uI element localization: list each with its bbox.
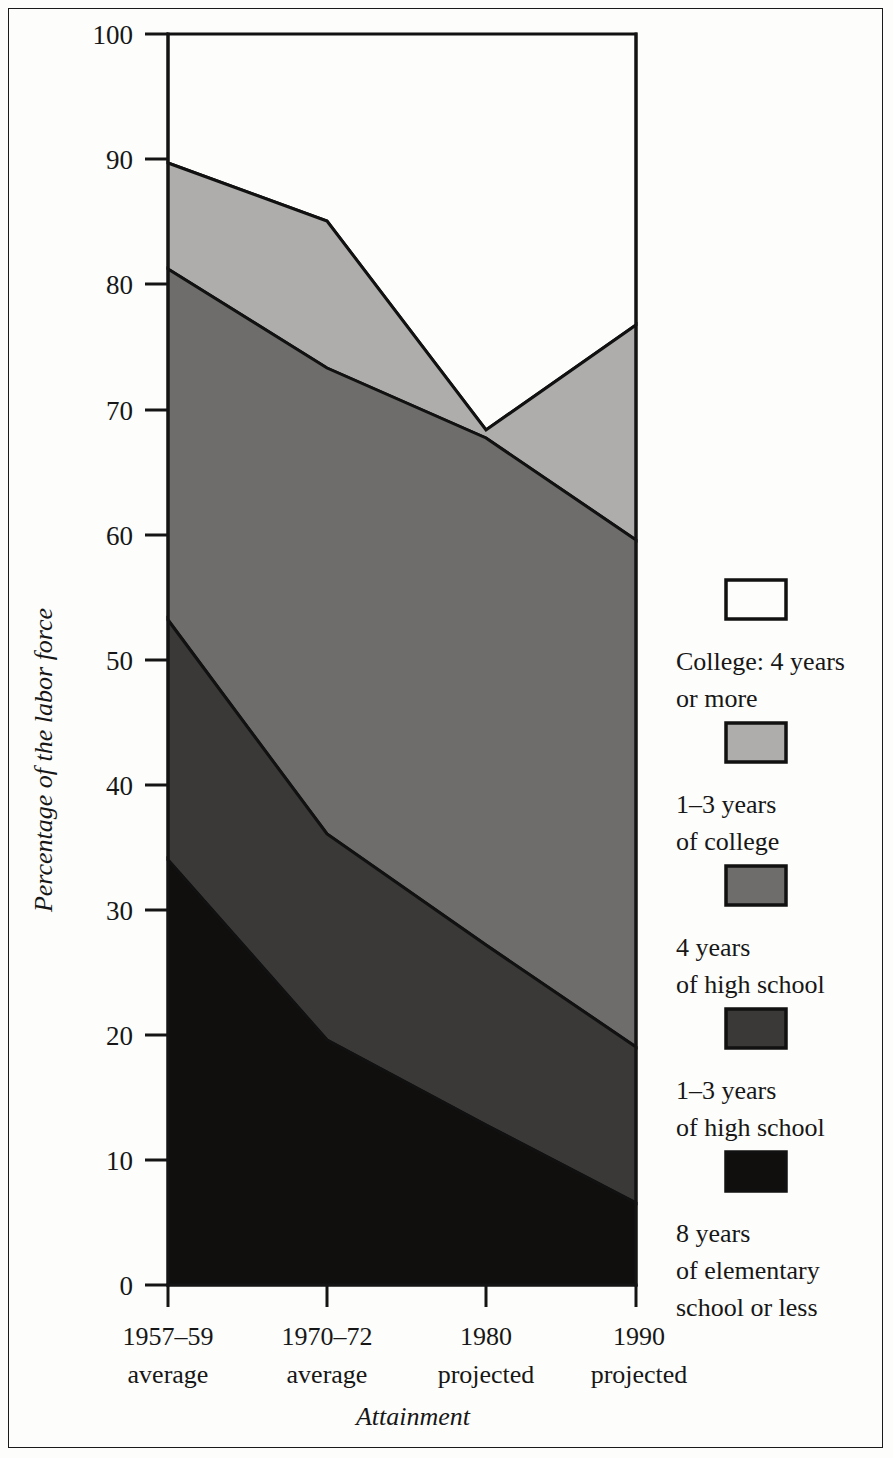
legend-swatch-college-4-or-more[interactable] — [726, 580, 786, 619]
legend-label-8-elementary-or-less-line3: school or less — [676, 1293, 818, 1322]
x-tick-label-3: 1980 — [460, 1322, 512, 1351]
x-tick-label-2: 1970–72 — [282, 1322, 373, 1351]
legend-label-4-high-school-line1: 4 years — [676, 933, 750, 962]
area-chart: 100 90 80 70 60 50 40 30 20 10 0 1957–59… — [0, 0, 893, 1458]
legend-label-college-4-or-more-line1: College: 4 years — [676, 647, 845, 676]
legend-label-1-3-college-line1: 1–3 years — [676, 790, 776, 819]
legend-swatch-1-3-college[interactable] — [726, 723, 786, 762]
y-tick-label-50: 50 — [106, 646, 133, 676]
legend-label-4-high-school-line2: of high school — [676, 970, 825, 999]
legend-swatch-1-3-high-school[interactable] — [726, 1009, 786, 1048]
y-axis-title: Percentage of the labor force — [29, 608, 58, 913]
x-tick-sublabel-2: average — [287, 1360, 368, 1389]
legend-label-1-3-high-school-line2: of high school — [676, 1113, 825, 1142]
legend-swatch-8-elementary-or-less[interactable] — [726, 1152, 786, 1191]
legend-label-8-elementary-or-less-line2: of elementary — [676, 1256, 820, 1285]
y-tick-label-100: 100 — [93, 20, 134, 50]
legend-label-college-4-or-more-line2: or more — [676, 684, 758, 713]
y-tick-label-80: 80 — [106, 270, 133, 300]
x-tick-sublabel-4: projected — [591, 1360, 688, 1389]
y-tick-label-40: 40 — [106, 771, 133, 801]
y-tick-label-70: 70 — [106, 396, 133, 426]
x-tick-label-4: 1990 — [613, 1322, 665, 1351]
x-tick-marks — [168, 1285, 636, 1307]
legend-label-1-3-high-school-line1: 1–3 years — [676, 1076, 776, 1105]
x-tick-sublabel-3: projected — [438, 1360, 535, 1389]
x-axis-title: Attainment — [354, 1402, 471, 1431]
legend-label-1-3-college-line2: of college — [676, 827, 779, 856]
x-tick-sublabel-1: average — [128, 1360, 209, 1389]
y-tick-label-60: 60 — [106, 521, 133, 551]
y-tick-label-30: 30 — [106, 896, 133, 926]
y-tick-label-20: 20 — [106, 1021, 133, 1051]
y-tick-label-0: 0 — [120, 1271, 134, 1301]
y-tick-label-10: 10 — [106, 1146, 133, 1176]
x-tick-label-1: 1957–59 — [123, 1322, 214, 1351]
figure-root: 100 90 80 70 60 50 40 30 20 10 0 1957–59… — [0, 0, 893, 1458]
legend-swatch-4-high-school[interactable] — [726, 866, 786, 905]
y-tick-marks — [145, 34, 168, 1285]
legend: College: 4 years or more 1–3 years of co… — [676, 580, 845, 1322]
legend-label-8-elementary-or-less-line1: 8 years — [676, 1219, 750, 1248]
y-tick-label-90: 90 — [106, 145, 133, 175]
